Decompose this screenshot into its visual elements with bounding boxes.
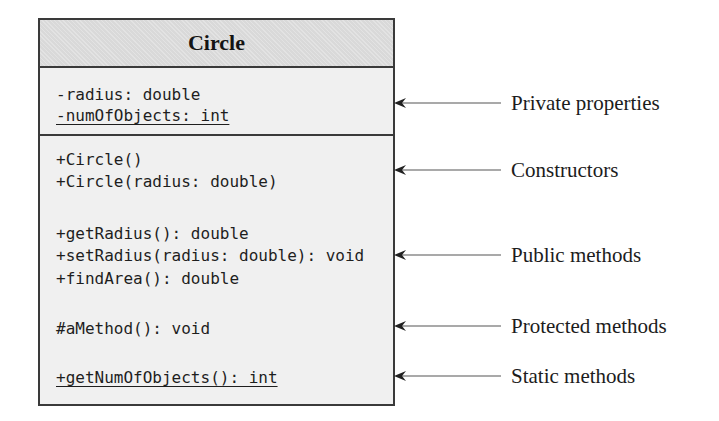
class-name-header: Circle [40,20,393,68]
annotation-label: Protected methods [511,314,667,339]
properties-section: -radius: double -numOfObjects: int [40,68,393,136]
annotation-label: Constructors [511,158,618,183]
annotation-label: Private properties [511,91,660,116]
annotation-label: Static methods [511,364,635,389]
left-arrow-icon [393,245,503,265]
annotation-private-properties: Private properties [393,93,660,113]
property-num-of-objects: -numOfObjects: int [56,106,229,126]
property-radius: -radius: double [56,85,201,105]
method-set-radius: +setRadius(radius: double): void [56,246,364,266]
method-a-method: #aMethod(): void [56,319,210,339]
method-constructor-radius: +Circle(radius: double) [56,172,278,192]
annotation-label: Public methods [511,243,641,268]
left-arrow-icon [393,160,503,180]
method-get-num-of-objects: +getNumOfObjects(): int [56,368,278,388]
left-arrow-icon [393,93,503,113]
class-name: Circle [188,30,245,56]
left-arrow-icon [393,316,503,336]
methods-section: +Circle() +Circle(radius: double) +getRa… [40,136,393,404]
method-find-area: +findArea(): double [56,269,239,289]
uml-class-box: Circle -radius: double -numOfObjects: in… [38,18,395,406]
method-constructor-default: +Circle() [56,150,143,170]
annotation-public-methods: Public methods [393,245,641,265]
left-arrow-icon [393,366,503,386]
annotation-static-methods: Static methods [393,366,635,386]
annotation-protected-methods: Protected methods [393,316,667,336]
annotation-constructors: Constructors [393,160,618,180]
method-get-radius: +getRadius(): double [56,224,249,244]
